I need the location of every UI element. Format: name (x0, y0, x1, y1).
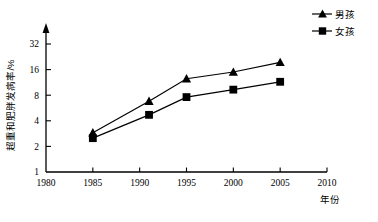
line-chart: 12481632 1980198519901995200020052010 男孩… (0, 0, 378, 222)
series-square (89, 78, 284, 142)
legend-label: 女孩 (335, 26, 355, 37)
y-axis-arrow (43, 23, 50, 33)
data-point-marker (89, 134, 97, 142)
x-tick-label: 2010 (318, 178, 337, 188)
legend-item: 女孩 (312, 26, 355, 37)
data-point-marker (276, 58, 285, 66)
data-point-marker (276, 78, 284, 86)
y-tick-label: 32 (30, 39, 40, 49)
chart-container: 12481632 1980198519901995200020052010 男孩… (0, 0, 378, 222)
y-tick-label: 2 (34, 142, 39, 152)
x-tick-label: 2000 (224, 178, 243, 188)
x-tick-label: 1995 (177, 178, 196, 188)
series-line (93, 82, 280, 138)
y-axis-title: 超重和肥胖发病率/% (5, 59, 16, 151)
y-tick-label: 1 (34, 167, 39, 177)
y-tick-label: 8 (34, 91, 39, 101)
data-series (88, 58, 285, 142)
x-tick-label: 1990 (130, 178, 149, 188)
y-tick-label: 16 (30, 65, 40, 75)
x-tick-label: 1980 (37, 178, 56, 188)
data-point-marker (183, 93, 191, 101)
y-axis-ticks: 12481632 (30, 39, 52, 177)
y-tick-label: 4 (34, 116, 39, 126)
data-point-marker (319, 27, 326, 34)
x-axis-title: 年份 (320, 194, 340, 205)
legend-label: 男孩 (335, 9, 355, 20)
data-point-marker (145, 111, 153, 119)
data-point-marker (229, 86, 237, 94)
data-point-marker (144, 97, 153, 105)
legend-item: 男孩 (312, 9, 355, 20)
x-tick-label: 1985 (83, 178, 102, 188)
x-axis-ticks: 1980198519901995200020052010 (37, 168, 337, 189)
x-tick-label: 2005 (271, 178, 290, 188)
chart-legend: 男孩女孩 (312, 9, 355, 37)
